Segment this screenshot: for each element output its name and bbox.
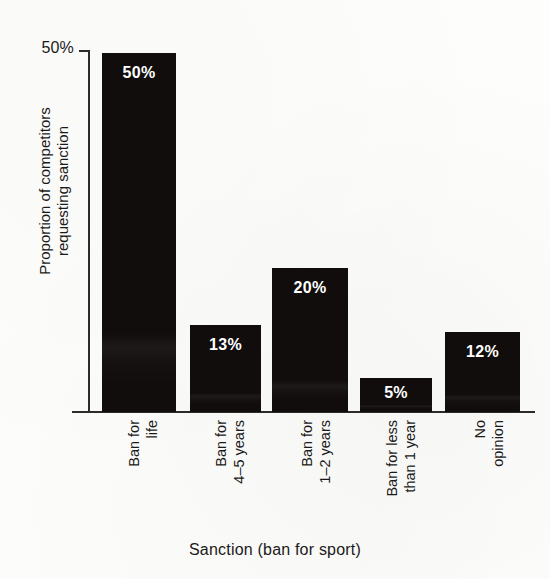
bar-value-label: 12% <box>445 343 520 361</box>
bar-ban-for-less-than-1-year: 5% <box>360 378 432 412</box>
x-axis-tick-label-no-opinion: No opinion <box>470 420 510 540</box>
x-axis-tick-label-ban-for-4-5-years: Ban for 4–5 years <box>211 420 251 540</box>
x-axis-title: Sanction (ban for sport) <box>0 541 550 559</box>
x-tick-line-2: than 1 year <box>402 420 420 493</box>
x-tick-line-2: life <box>144 420 162 439</box>
x-tick-line-1: Ban for <box>126 420 144 467</box>
bar-value-label: 5% <box>360 384 432 402</box>
bar-value-label: 50% <box>102 64 176 82</box>
bar-ban-for-1-2-years: 20% <box>272 268 348 412</box>
bar-value-label: 13% <box>190 336 261 354</box>
x-tick-line-2: opinion <box>490 420 508 467</box>
x-tick-line-2: 4–5 years <box>231 420 249 484</box>
x-axis-tick-label-ban-for-1-2-years: Ban for 1–2 years <box>297 420 337 540</box>
x-axis-tick-label-ban-for-less-than-1-year: Ban for less than 1 year <box>382 420 422 540</box>
x-tick-line-1: No <box>472 420 490 439</box>
bar-value-label: 20% <box>272 279 348 297</box>
plot-area: 50% 13% 20% 5% 12% <box>0 0 550 579</box>
bar-no-opinion: 12% <box>445 332 520 412</box>
x-tick-line-1: Ban for less <box>384 420 402 497</box>
x-tick-line-1: Ban for <box>299 420 317 467</box>
x-tick-line-2: 1–2 years <box>317 420 335 484</box>
x-tick-line-1: Ban for <box>213 420 231 467</box>
bar-ban-for-4-5-years: 13% <box>190 325 261 412</box>
bar-ban-for-life: 50% <box>102 53 176 412</box>
bar-chart: Proportion of competitors requesting san… <box>0 0 550 579</box>
x-axis-tick-label-ban-for-life: Ban for life <box>124 420 164 540</box>
